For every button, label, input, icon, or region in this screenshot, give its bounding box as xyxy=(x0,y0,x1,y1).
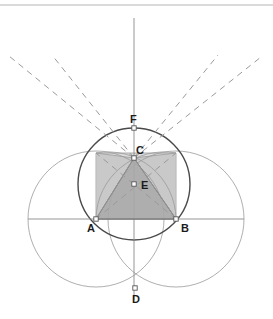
geometry-canvas: ABCDEF xyxy=(0,0,273,319)
point-label-D: D xyxy=(132,293,140,305)
geometry-figure: ABCDEF xyxy=(0,0,273,319)
point-label-A: A xyxy=(87,222,95,234)
point-label-C: C xyxy=(136,144,144,156)
dashed-ray-upper-right xyxy=(134,55,218,158)
point-marker-C xyxy=(132,156,136,160)
point-label-B: B xyxy=(181,222,189,234)
point-marker-F xyxy=(132,126,136,130)
point-marker-B xyxy=(174,217,178,221)
point-label-E: E xyxy=(141,179,148,191)
dashed-ray-upper-left xyxy=(52,55,134,158)
dashed-ray-right xyxy=(134,57,261,158)
point-marker-A xyxy=(94,217,98,221)
point-label-F: F xyxy=(130,113,137,125)
point-marker-E xyxy=(132,182,136,186)
dashed-ray-left xyxy=(9,56,134,158)
point-marker-D xyxy=(133,286,137,290)
